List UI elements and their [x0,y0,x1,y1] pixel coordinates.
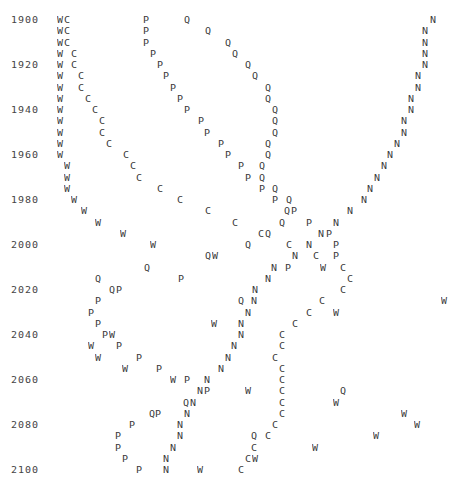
series-point-w: W [81,207,87,217]
series-point-w: W [64,184,70,194]
series-point-c: C [272,353,278,363]
series-point-c: C [99,128,105,138]
series-point-n: N [177,432,183,442]
series-point-w: W [150,240,156,250]
series-point-n: N [204,375,210,385]
series-point-p: P [150,49,156,59]
series-point-q: Q [259,162,265,172]
series-point-p: P [184,105,190,115]
series-point-p: P [156,364,162,374]
series-point-p: P [333,252,339,262]
series-point-n: N [408,94,414,104]
series-point-c: C [279,342,285,352]
series-point-p: P [259,184,265,194]
series-point-w: W [57,83,63,93]
y-tick-label: 2080 [11,420,39,430]
series-point-n: N [265,274,271,284]
series-point-p: P [238,162,244,172]
series-point-c: C [340,285,346,295]
series-point-q: Q [272,184,278,194]
y-tick-label: 2020 [11,285,39,295]
series-point-n: N [408,105,414,115]
series-point-p: P [116,285,122,295]
series-point-c: C [177,195,183,205]
series-point-w: W [57,60,63,70]
series-point-q: Q [184,15,190,25]
y-tick-label: 2060 [11,375,39,385]
series-point-q: Q [272,128,278,138]
series-point-w: W [88,342,94,352]
series-point-c: C [279,398,285,408]
series-point-n: N [225,353,231,363]
series-point-n: N [163,454,169,464]
series-point-n: N [184,409,190,419]
series-point-n: N [394,139,400,149]
series-point-p: P [143,27,149,37]
series-point-n: N [318,229,324,239]
series-point-q: Q [251,432,257,442]
series-point-c: C [64,15,70,25]
series-point-n: N [422,49,428,59]
series-point-n: N [238,330,244,340]
series-point-q: Q [279,218,285,228]
series-point-w: W [57,94,63,104]
series-point-p: P [291,207,297,217]
series-point-w: W [57,49,63,59]
y-tick-label: 1980 [11,195,39,205]
series-point-q: Q [265,229,271,239]
series-point-p: P [115,443,121,453]
series-point-n: N [347,207,353,217]
series-point-c: C [286,240,292,250]
series-point-n: N [163,465,169,475]
series-point-c: C [279,409,285,419]
series-point-w: W [120,229,126,239]
series-point-n: N [190,398,196,408]
y-tick-label: 2000 [11,240,39,250]
series-point-c: C [106,139,112,149]
series-point-n: N [415,72,421,82]
series-point-w: W [57,105,63,115]
series-point-q: Q [265,139,271,149]
series-point-w: W [320,263,326,273]
series-point-q: Q [95,274,101,284]
series-point-c: C [251,443,257,453]
series-point-p: P [218,139,224,149]
series-point-q: Q [265,83,271,93]
series-point-c: C [238,465,244,475]
series-point-w: W [333,308,339,318]
series-point-q: Q [286,195,292,205]
series-point-q: Q [272,117,278,127]
series-point-p: P [225,150,231,160]
series-point-w: W [441,297,447,307]
series-point-w: W [95,218,101,228]
series-point-w: W [71,195,77,205]
y-tick-label: 2040 [11,330,39,340]
series-point-p: P [143,38,149,48]
series-point-q: Q [109,285,115,295]
series-point-n: N [306,240,312,250]
series-point-q: Q [259,173,265,183]
series-point-w: W [373,432,379,442]
series-point-p: P [136,353,142,363]
series-point-n: N [231,342,237,352]
series-point-n: N [271,263,277,273]
series-point-c: C [64,38,70,48]
series-point-w: W [57,38,63,48]
series-point-p: P [136,465,142,475]
series-point-c: C [313,252,319,262]
series-point-n: N [422,60,428,70]
series-point-w: W [95,353,101,363]
series-point-n: N [245,308,251,318]
series-point-q: Q [284,207,290,217]
series-point-c: C [78,72,84,82]
series-point-c: C [245,454,251,464]
series-point-w: W [211,319,217,329]
series-point-w: W [333,398,339,408]
series-point-w: W [57,117,63,127]
series-point-p: P [170,83,176,93]
series-point-p: P [115,432,121,442]
series-point-q: Q [245,240,251,250]
series-point-q: Q [252,72,258,82]
y-tick-label: 1920 [11,60,39,70]
series-point-w: W [312,443,318,453]
